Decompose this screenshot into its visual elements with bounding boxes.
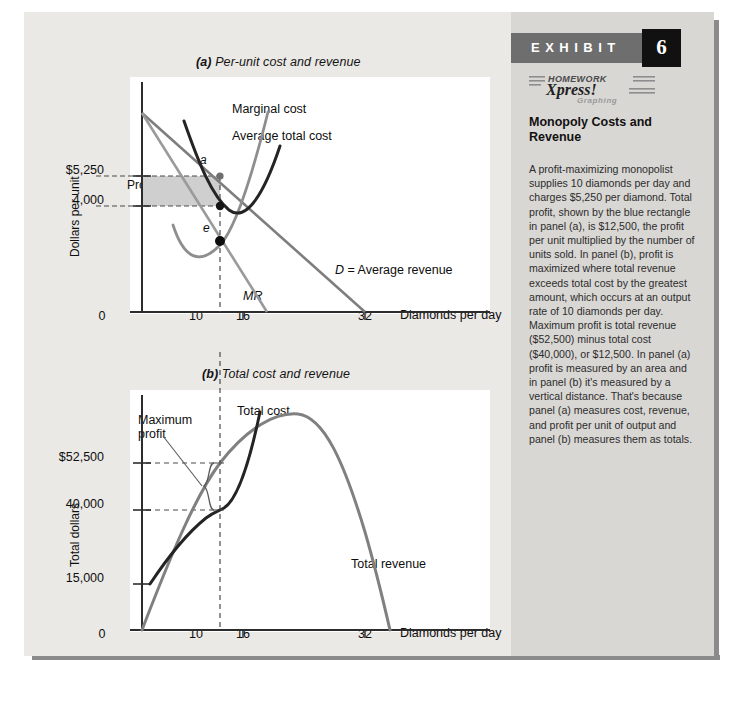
logo-right-stripes bbox=[629, 76, 655, 94]
page-root: (a) Per-unit cost and revenue Dollars pe… bbox=[0, 0, 738, 711]
exhibit-sidebar: EXHIBIT 6 HOMEWORK Xpress! Graphing Mono… bbox=[511, 12, 714, 656]
figure-column: (a) Per-unit cost and revenue Dollars pe… bbox=[24, 12, 511, 656]
exhibit-sidebar-body: A profit-maximizing monopolist supplies … bbox=[529, 162, 697, 446]
logo-graphing-text: Graphing bbox=[577, 96, 617, 105]
paper-shadow-right bbox=[714, 20, 719, 660]
panel-b-svg bbox=[24, 12, 511, 656]
homework-xpress-logo: HOMEWORK Xpress! Graphing bbox=[529, 72, 659, 106]
exhibit-sidebar-title: Monopoly Costs and Revenue bbox=[529, 115, 704, 145]
exhibit-number: 6 bbox=[642, 35, 681, 60]
maximum-profit-leader bbox=[163, 436, 202, 486]
exhibit-word-label: EXHIBIT bbox=[531, 40, 621, 55]
total-revenue-curve bbox=[142, 414, 390, 630]
logo-left-stripes bbox=[529, 76, 545, 86]
